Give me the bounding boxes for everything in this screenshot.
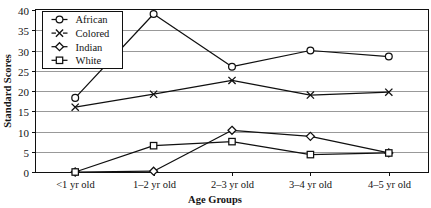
series-line <box>75 142 389 172</box>
data-point-marker <box>307 47 314 54</box>
y-axis-tick-label: 40 <box>18 5 30 17</box>
data-point-marker <box>150 167 158 175</box>
legend-marker-circle-icon <box>56 16 63 23</box>
x-axis-category-label: 4–5 yr old <box>368 179 412 190</box>
y-axis-title: Standard Scores <box>2 54 13 128</box>
x-axis-labels: <1 yr old1–2 yr old2–3 yr old3–4 yr old4… <box>56 179 412 190</box>
data-point-marker <box>229 138 235 144</box>
x-axis-category-label: 1–2 yr old <box>133 179 177 190</box>
data-point-marker <box>228 126 236 134</box>
y-axis-tick-label: 10 <box>18 127 30 139</box>
data-point-marker <box>306 132 314 140</box>
y-axis-tick-label: 20 <box>18 86 30 98</box>
y-axis-tick-label: 30 <box>18 46 30 58</box>
data-point-marker <box>229 63 236 70</box>
x-axis-category-label: 2–3 yr old <box>211 179 255 190</box>
legend-item-indian[interactable]: Indian <box>52 42 104 53</box>
data-point-marker <box>150 142 156 148</box>
y-axis-tick-label: 25 <box>18 66 30 78</box>
chart-legend: AfricanColoredIndianWhite <box>43 12 123 69</box>
x-axis-title: Age Groups <box>188 194 242 205</box>
data-point-marker <box>150 11 157 18</box>
y-axis: 0510152025303540 <box>18 5 36 179</box>
chart-figure: 0510152025303540 Standard Scores <1 yr o… <box>0 0 431 208</box>
series-line <box>75 80 389 107</box>
legend-item-label: African <box>76 14 109 25</box>
line-chart: 0510152025303540 Standard Scores <1 yr o… <box>0 0 431 208</box>
series-colored <box>72 77 393 111</box>
series-indian <box>71 126 393 176</box>
y-axis-tick-label: 35 <box>18 25 30 37</box>
x-axis-category-label: <1 yr old <box>56 179 95 190</box>
legend-item-label: Indian <box>76 42 104 53</box>
data-point-marker <box>385 53 392 60</box>
data-point-marker <box>386 150 392 156</box>
legend-item-label: White <box>76 55 102 66</box>
y-axis-tick-label: 5 <box>24 147 30 159</box>
series-line <box>75 130 389 172</box>
data-point-marker <box>72 94 79 101</box>
legend-item-label: Colored <box>76 28 111 39</box>
x-axis-category-label: 3–4 yr old <box>289 179 333 190</box>
data-point-marker <box>72 169 78 175</box>
legend-marker-square-icon <box>56 57 62 63</box>
data-point-marker <box>307 151 313 157</box>
y-axis-tick-label: 0 <box>24 167 30 179</box>
y-axis-tick-label: 15 <box>18 106 30 118</box>
